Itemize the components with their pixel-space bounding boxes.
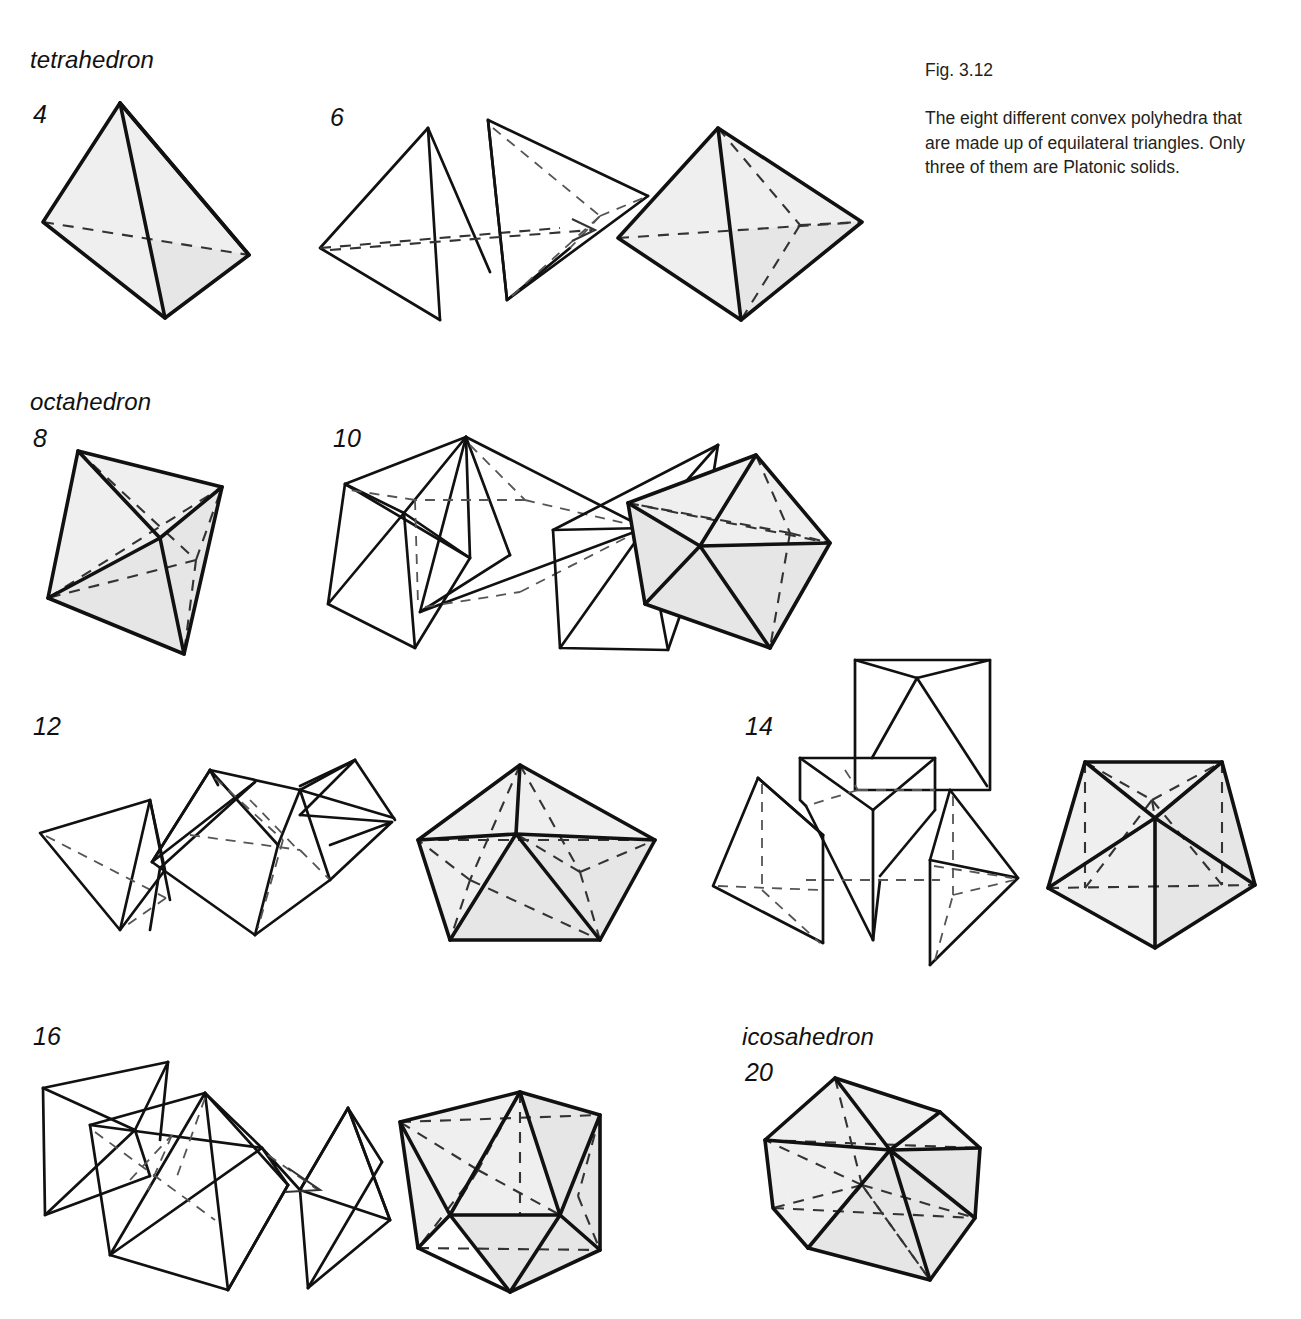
solid-14 [1048, 762, 1255, 948]
label-icosahedron: icosahedron [742, 1023, 874, 1051]
group-14-exploded [713, 660, 1018, 965]
figure-caption: Fig. 3.12 The eight different convex pol… [925, 34, 1270, 203]
label-octahedron: octahedron [30, 388, 151, 416]
group-10-exploded [328, 437, 718, 650]
solid-tetrahedron-4 [43, 103, 249, 318]
label-count-6: 6 [330, 103, 344, 132]
figure-root: Fig. 3.12 The eight different convex pol… [0, 0, 1301, 1319]
group-12-exploded [40, 760, 395, 935]
figure-caption-text: The eight different convex polyhedra tha… [925, 106, 1270, 178]
label-count-8: 8 [33, 424, 47, 453]
label-count-10: 10 [333, 424, 361, 453]
label-count-20: 20 [745, 1058, 773, 1087]
solid-triangular-bipyramid-6 [618, 128, 862, 320]
group-16-exploded [43, 1062, 390, 1290]
label-count-4: 4 [33, 100, 47, 129]
label-count-16: 16 [33, 1022, 61, 1051]
solid-octahedron-8 [48, 451, 222, 654]
label-count-12: 12 [33, 712, 61, 741]
label-count-14: 14 [745, 712, 773, 741]
figure-number: Fig. 3.12 [925, 58, 1270, 82]
solid-12 [418, 765, 655, 940]
solid-icosahedron-20 [765, 1078, 980, 1280]
solid-10 [628, 455, 830, 648]
label-tetrahedron: tetrahedron [30, 46, 154, 74]
group-6-exploded [320, 120, 648, 320]
solid-16 [400, 1092, 600, 1292]
